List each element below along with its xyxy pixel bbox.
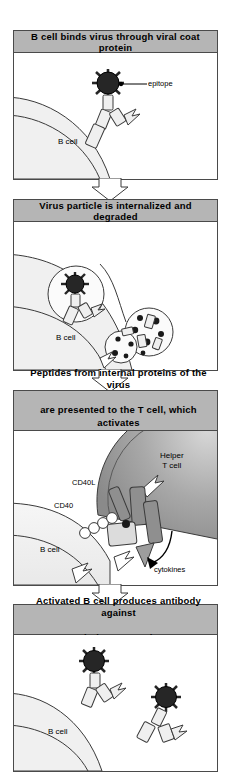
panel-2-illustration [14, 222, 217, 370]
panel-1-body: B cell epitope [14, 53, 217, 179]
panel-2-bcell-label: B cell [56, 333, 76, 342]
panel-1-bcell-label: B cell [58, 137, 78, 146]
panel-3-cd40-label: CD40 [54, 501, 73, 510]
epitope-dot [119, 82, 123, 86]
secreted-antibody-1 [81, 673, 126, 708]
virus-particle [66, 275, 84, 293]
panel-3-illustration [14, 431, 217, 585]
panel-1-header-text: B cell binds virus through viral coat pr… [14, 31, 217, 53]
panel-3-tcell-label-line-2: T cell [162, 461, 181, 470]
panel-2: Virus particle is internalized and degra… [13, 199, 218, 371]
panel-3-body: Helper T cell CD40L CD40 B cell cytokine… [14, 431, 217, 585]
down-arrow-icon [92, 178, 128, 201]
panel-1-illustration [14, 53, 217, 179]
panel-3-tcell-label: Helper T cell [160, 451, 184, 471]
panel-4-bcell-label: B cell [48, 727, 68, 736]
panel-3-header-line-1: Peptides from internal proteins of the v… [17, 367, 220, 392]
b-cell-membrane [14, 503, 110, 585]
panel-3-header: Peptides from internal proteins of the v… [14, 391, 217, 431]
panel-3-tcell-label-line-1: Helper [160, 451, 184, 460]
antibody-receptor [85, 95, 140, 148]
secreted-antibody-2 [136, 708, 187, 743]
panel-1-epitope-label: epitope [148, 79, 173, 88]
panel-4-body: B cell [14, 635, 217, 771]
virus-particle-1 [84, 651, 105, 672]
panel-4-illustration [14, 635, 217, 771]
mhc-class-ii [107, 522, 137, 547]
panel-3: Peptides from internal proteins of the v… [13, 390, 218, 586]
virus-particle [97, 72, 119, 94]
panel-4-header-line-1: Activated B cell produces antibody again… [17, 595, 220, 620]
bound-peptide [122, 520, 130, 528]
panel-2-body: B cell [14, 222, 217, 370]
panel-1: B cell binds virus through viral coat pr… [13, 30, 218, 180]
panel-4: Activated B cell produces antibody again… [13, 604, 218, 772]
figure-root: B cell binds virus through viral coat pr… [0, 0, 229, 784]
panel-3-cd40l-label: CD40L [72, 478, 95, 487]
panel-2-header-text: Virus particle is internalized and degra… [14, 200, 217, 222]
panel-4-header: Activated B cell produces antibody again… [14, 605, 217, 635]
activation-arrow-1 [114, 551, 134, 571]
virus-particle-2 [156, 687, 177, 708]
panel-3-bcell-label: B cell [40, 545, 60, 554]
panel-3-cytokines-label: cytokines [154, 565, 185, 574]
panel-3-header-line-2: are presented to the T cell, which activ… [17, 404, 220, 429]
panel-1-header: B cell binds virus through viral coat pr… [14, 31, 217, 53]
panel-2-header: Virus particle is internalized and degra… [14, 200, 217, 222]
